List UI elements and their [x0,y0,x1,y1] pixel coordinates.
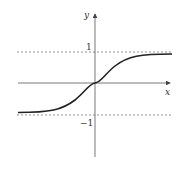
y-axis-label: y [83,10,90,20]
sigmoid-chart: y x 1 −1 [0,0,185,169]
tick-label-1: 1 [86,42,92,52]
x-axis-label: x [165,87,170,97]
tick-label-neg1: −1 [80,118,93,128]
